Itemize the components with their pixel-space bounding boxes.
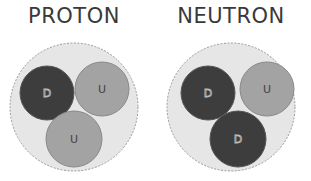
proton-diagram: D U U [10,43,138,171]
quark-down: D [210,111,266,167]
neutron-diagram: D U D [167,43,295,171]
quark-label: U [70,133,78,146]
quark-label: D [43,87,51,100]
quark-label: D [234,133,242,146]
quark-up: U [240,62,294,116]
quark-up: U [46,111,102,167]
quark-diagram: D U U D U D [0,0,311,181]
quark-up: U [75,62,129,116]
quark-down: D [181,66,235,120]
quark-label: D [204,87,212,100]
quark-label: U [263,83,271,96]
quark-label: U [98,83,106,96]
